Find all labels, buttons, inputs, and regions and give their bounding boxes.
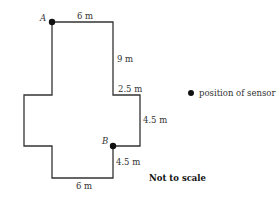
legend-label: position of sensor (199, 88, 276, 98)
sensor-B-marker (110, 143, 116, 149)
point-B-label: B (101, 136, 108, 146)
legend-sensor-icon (188, 90, 194, 96)
dim-right-upper: 9 m (117, 54, 133, 64)
dim-below-B: 4.5 m (116, 157, 140, 167)
dim-bottom: 6 m (76, 181, 92, 191)
floor-plan-diagram: A B 6 m 9 m 2.5 m 4.5 m 4.5 m 6 m positi… (0, 0, 278, 197)
point-A-label: A (39, 13, 46, 23)
sensor-A-marker (49, 19, 55, 25)
not-to-scale-note: Not to scale (149, 173, 207, 183)
dim-step-right: 2.5 m (118, 84, 142, 94)
dim-right-lower: 4.5 m (143, 115, 167, 125)
floor-plan-outline (24, 22, 140, 178)
dim-top: 6 m (77, 11, 93, 21)
